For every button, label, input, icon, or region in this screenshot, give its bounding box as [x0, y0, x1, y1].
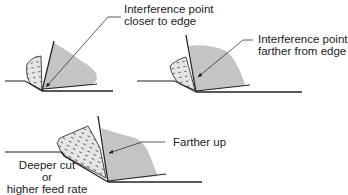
- contact-zone-shade: [189, 45, 245, 91]
- caption-line: Deeper cut: [2, 159, 92, 171]
- label-line: farther from edge: [258, 45, 348, 57]
- label-line: Interference point: [124, 3, 214, 15]
- label-farther-from-edge: Interference point farther from edge: [258, 33, 348, 57]
- label-line: Farther up: [173, 136, 226, 148]
- label-farther-up: Farther up: [173, 136, 226, 148]
- chip: [27, 56, 42, 90]
- caption-line: or: [2, 171, 92, 183]
- label-closer-to-edge: Interference point closer to edge: [124, 3, 214, 27]
- figure-closer-to-edge: [5, 17, 121, 91]
- contact-zone-shade: [43, 43, 97, 89]
- label-line: closer to edge: [124, 15, 214, 27]
- caption-deeper-cut: Deeper cut or higher feed rate: [2, 159, 92, 195]
- label-line: Interference point: [258, 33, 348, 45]
- caption-line: higher feed rate: [2, 183, 92, 195]
- contact-zone-shade: [101, 128, 158, 181]
